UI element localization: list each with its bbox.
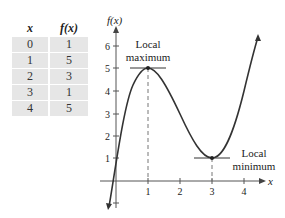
local-min-label-1: Local <box>241 147 266 159</box>
tick-x3: 3 <box>210 186 215 197</box>
x-axis-label: x <box>267 175 273 187</box>
curve-arrow-icon <box>255 34 261 41</box>
curve-arrow-down-icon <box>106 203 112 210</box>
tick-x1: 1 <box>146 186 151 197</box>
x-axis-arrow-icon <box>259 178 266 184</box>
local-max-label-1: Local <box>135 38 160 50</box>
tick-x2: 2 <box>178 186 183 197</box>
tick-y6: 6 <box>105 41 110 52</box>
local-min-point <box>210 156 214 160</box>
local-max-label-2: maximum <box>126 51 171 63</box>
tick-y2: 2 <box>105 131 110 142</box>
tick-y3: 3 <box>105 109 110 120</box>
function-graph: 1 2 3 4 5 6 1 2 3 4 f(x) x Local maximum… <box>0 0 285 218</box>
y-axis-arrow-icon <box>113 26 119 33</box>
tick-y5: 5 <box>105 63 110 74</box>
y-axis-label: f(x) <box>107 14 123 27</box>
tick-y1: 1 <box>105 153 110 164</box>
tick-x4: 4 <box>242 186 247 197</box>
tick-y4: 4 <box>105 86 110 97</box>
local-min-label-2: minimum <box>233 160 276 172</box>
local-max-point <box>146 66 150 70</box>
